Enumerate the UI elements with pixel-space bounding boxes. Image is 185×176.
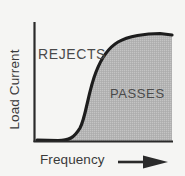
rejects-region-label: REJECTS	[38, 46, 106, 62]
x-axis-label: Frequency	[40, 152, 105, 168]
passes-region-label: PASSES	[110, 86, 165, 101]
right-arrow-icon	[143, 156, 168, 169]
y-axis-label: Load Current	[6, 32, 24, 147]
filter-response-chart: Load Current Frequency REJECTS PASSES	[0, 0, 185, 176]
